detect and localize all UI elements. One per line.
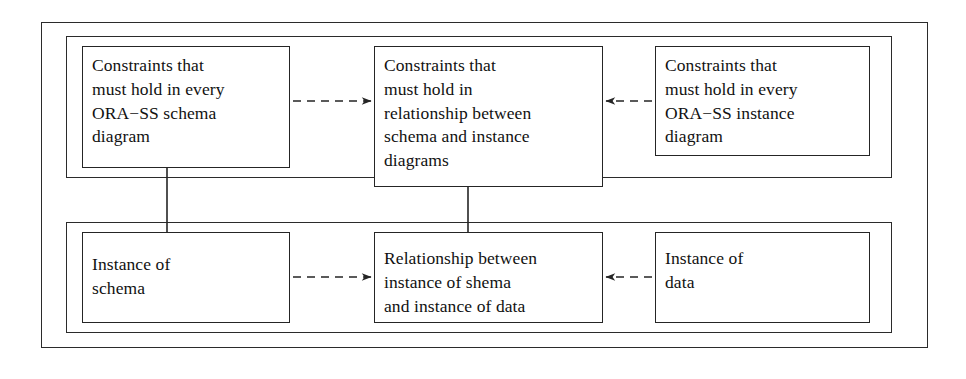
node-text-line: schema and instance: [384, 125, 602, 149]
node-schema-constraints: Constraints that must hold in every ORA−…: [82, 46, 290, 168]
node-text-line: diagram: [665, 125, 869, 149]
node-relationship-constraints: Constraints that must hold in relationsh…: [374, 46, 603, 187]
node-instance-of-schema: Instance of schema: [82, 232, 290, 323]
node-text-line: ORA−SS schema: [92, 102, 289, 126]
node-instance-of-data: Instance of data: [655, 232, 870, 323]
node-text-line: and instance of data: [384, 295, 602, 319]
node-relationship-instances: Relationship between instance of shema a…: [374, 232, 603, 323]
diagram-canvas: Constraints that must hold in every ORA−…: [0, 0, 966, 379]
node-text-line: data: [665, 271, 869, 295]
node-text-line: schema: [92, 277, 289, 301]
node-text-line: diagram: [92, 125, 289, 149]
node-instance-constraints: Constraints that must hold in every ORA−…: [655, 46, 870, 156]
node-text-line: must hold in every: [665, 78, 869, 102]
node-text-line: relationship between: [384, 102, 602, 126]
node-text-line: Constraints that: [92, 54, 289, 78]
node-text-line: diagrams: [384, 149, 602, 173]
node-text-line: Relationship between: [384, 247, 602, 271]
node-text-line: must hold in every: [92, 78, 289, 102]
node-text-line: Instance of: [665, 247, 869, 271]
node-text-line: instance of shema: [384, 271, 602, 295]
node-text-line: must hold in: [384, 78, 602, 102]
node-text-line: ORA−SS instance: [665, 102, 869, 126]
node-text-line: Constraints that: [665, 54, 869, 78]
node-text-line: Constraints that: [384, 54, 602, 78]
node-text-line: Instance of: [92, 253, 289, 277]
